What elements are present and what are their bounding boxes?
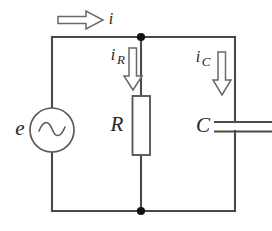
current-iC-label-base: i	[196, 48, 200, 65]
source-label: e	[15, 116, 24, 140]
bottom-junction-node	[137, 207, 145, 215]
current-iC-label: i C	[196, 48, 211, 69]
ac-voltage-source-symbol	[30, 108, 74, 152]
current-iR-label-subscript: R	[116, 52, 125, 67]
current-i-arrow-icon	[58, 11, 103, 29]
current-iR-label: i R	[111, 46, 125, 67]
circuit-schematic-canvas: e R C i i R i C	[0, 0, 272, 231]
resistor-body	[133, 96, 151, 155]
current-iR-label-base: i	[111, 46, 115, 63]
current-iC-label-subscript: C	[202, 54, 211, 69]
capacitor-label: C	[196, 113, 211, 137]
current-iR-arrow-icon	[124, 48, 142, 90]
top-junction-node	[137, 33, 145, 41]
current-i-label: i	[109, 10, 113, 27]
resistor-label: R	[110, 112, 124, 136]
capacitor-symbol	[214, 122, 272, 132]
circuit-diagram: e R C i i R i C	[0, 0, 272, 231]
current-iC-arrow-icon	[213, 52, 231, 95]
resistor-symbol	[133, 96, 151, 155]
